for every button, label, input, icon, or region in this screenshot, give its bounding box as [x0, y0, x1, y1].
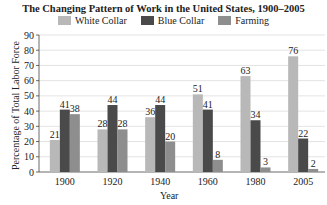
- data-label: 36: [145, 106, 155, 117]
- data-label: 41: [60, 99, 70, 110]
- bar: [70, 114, 80, 172]
- data-label: 76: [288, 45, 298, 56]
- x-tick-label: 2005: [293, 176, 313, 187]
- x-tick-label: 1980: [246, 176, 266, 187]
- data-label: 38: [70, 103, 80, 114]
- data-label: 21: [50, 129, 60, 140]
- y-tick-label: 10: [24, 151, 34, 162]
- data-label: 44: [155, 94, 165, 105]
- y-tick-label: 80: [24, 45, 34, 56]
- bar: [251, 120, 261, 172]
- data-label: 3: [263, 156, 268, 167]
- data-label: 28: [118, 118, 128, 129]
- data-label: 51: [193, 83, 203, 94]
- y-tick-label: 40: [24, 106, 34, 117]
- bar: [261, 167, 271, 172]
- y-tick-label: 60: [24, 75, 34, 86]
- data-label: 28: [98, 118, 108, 129]
- bar: [165, 142, 175, 172]
- bar: [203, 110, 213, 172]
- data-label: 20: [165, 131, 175, 142]
- bar: [308, 169, 318, 172]
- data-label: 22: [298, 128, 308, 139]
- y-tick-label: 20: [24, 136, 34, 147]
- data-label: 2: [311, 158, 316, 169]
- plot-area: 0102030405060708090214138190028442819203…: [0, 0, 327, 205]
- data-label: 8: [215, 149, 220, 160]
- y-tick-label: 90: [24, 30, 34, 41]
- x-tick-label: 1900: [55, 176, 75, 187]
- y-tick-label: 30: [24, 121, 34, 132]
- data-label: 41: [203, 99, 213, 110]
- bar: [60, 110, 70, 172]
- data-label: 34: [251, 109, 261, 120]
- x-tick-label: 1960: [198, 176, 218, 187]
- data-label: 63: [241, 65, 251, 76]
- y-tick-label: 50: [24, 90, 34, 101]
- bar: [50, 140, 60, 172]
- bar: [155, 105, 165, 172]
- bar: [241, 76, 251, 172]
- bar: [145, 117, 155, 172]
- bar: [193, 94, 203, 172]
- bar: [213, 160, 223, 172]
- x-tick-label: 1920: [103, 176, 123, 187]
- bar: [108, 105, 118, 172]
- bar: [98, 129, 108, 172]
- data-label: 44: [108, 94, 118, 105]
- x-tick-label: 1940: [150, 176, 170, 187]
- bar: [118, 129, 128, 172]
- y-tick-label: 0: [29, 167, 34, 178]
- y-tick-label: 70: [24, 60, 34, 71]
- bar: [288, 56, 298, 172]
- bar: [298, 139, 308, 172]
